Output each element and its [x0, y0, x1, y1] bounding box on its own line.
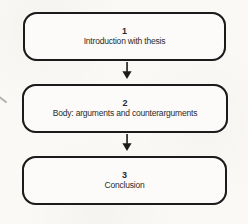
- step-label: Conclusion: [104, 180, 144, 191]
- flow-step-introduction: 1 Introduction with thesis: [23, 12, 226, 61]
- down-arrow-icon: [120, 62, 134, 80]
- step-number: 1: [122, 26, 127, 36]
- step-number: 3: [122, 170, 127, 180]
- flowchart-diagram: 1 Introduction with thesis 2 Body: argum…: [0, 0, 248, 224]
- down-arrow-icon: [120, 134, 134, 152]
- scan-artifact: [0, 95, 7, 104]
- flow-step-conclusion: 3 Conclusion: [22, 156, 227, 205]
- flow-step-body: 2 Body: arguments and counterarguments: [22, 84, 228, 133]
- step-label: Introduction with thesis: [84, 36, 166, 47]
- step-number: 2: [122, 98, 127, 108]
- step-label: Body: arguments and counterarguments: [53, 108, 197, 119]
